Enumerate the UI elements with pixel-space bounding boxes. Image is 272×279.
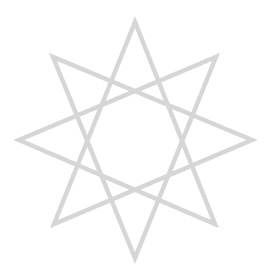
star-outline bbox=[19, 22, 252, 258]
canvas bbox=[0, 0, 272, 279]
octagram-star-icon bbox=[0, 0, 272, 279]
